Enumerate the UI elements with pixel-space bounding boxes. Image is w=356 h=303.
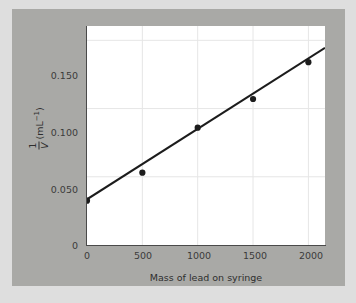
y-axis-title-numerator: 1 bbox=[29, 142, 38, 150]
x-tick-label-1500: 1500 bbox=[235, 250, 275, 261]
y-tick-label-0150: 0.150 bbox=[44, 70, 78, 81]
y-tick-label-0050: 0.050 bbox=[44, 184, 78, 195]
y-axis-title: 1 V (mL−1) bbox=[29, 86, 50, 172]
x-tick-label-500: 500 bbox=[123, 250, 163, 261]
figure-container: 0.150 0.100 0.050 0 0 500 1000 1500 2000… bbox=[0, 0, 356, 303]
x-axis-line bbox=[86, 245, 326, 246]
y-axis-unit-open: (mL bbox=[34, 121, 45, 139]
y-axis-title-denominator: V bbox=[41, 142, 50, 150]
y-axis-line bbox=[86, 26, 87, 246]
y-axis-title-unit: (mL−1) bbox=[33, 107, 45, 139]
y-axis-unit-exponent: −1 bbox=[33, 111, 41, 121]
y-axis-title-fraction: 1 V bbox=[29, 142, 50, 150]
data-layer bbox=[87, 26, 325, 245]
y-axis-unit-close: ) bbox=[34, 107, 45, 111]
plot-area bbox=[87, 26, 325, 245]
x-tick-label-1000: 1000 bbox=[179, 250, 219, 261]
x-tick-label-0: 0 bbox=[67, 250, 107, 261]
x-tick-label-2000: 2000 bbox=[291, 250, 331, 261]
x-axis-title: Mass of lead on syringe bbox=[87, 272, 325, 283]
